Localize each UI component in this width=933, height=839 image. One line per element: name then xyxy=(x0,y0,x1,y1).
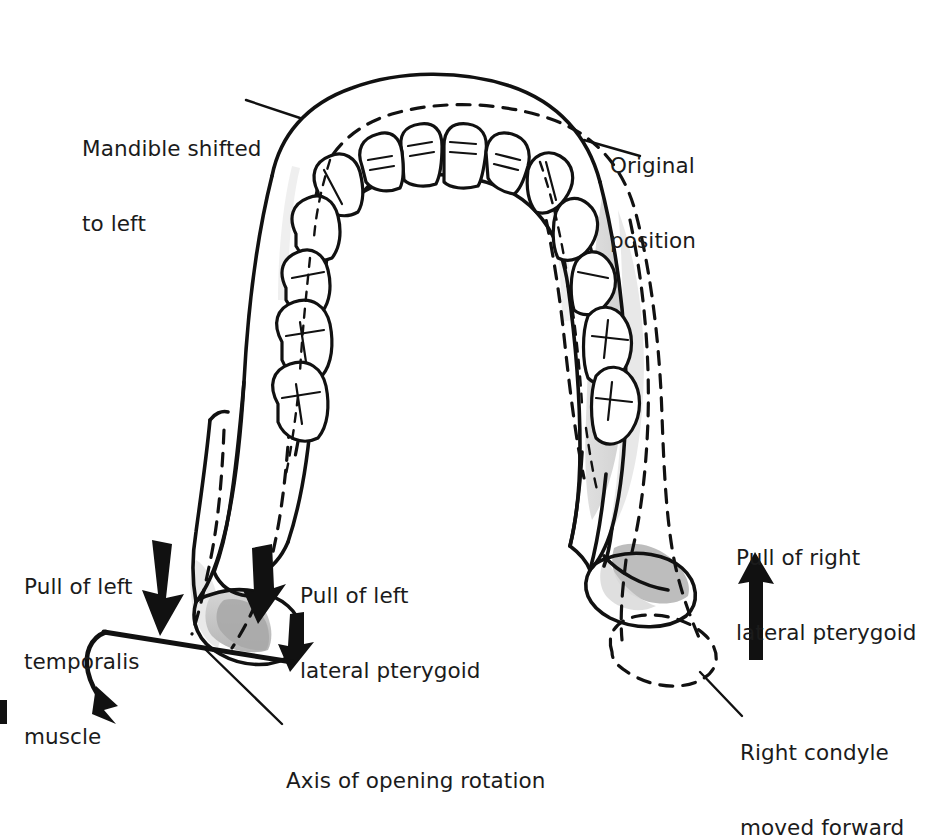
label-original-position-line1: Original xyxy=(610,153,696,178)
label-mandible-shifted-line1: Mandible shifted xyxy=(82,136,262,161)
label-pull-left-temporalis-line2: temporalis xyxy=(24,649,140,674)
right-coronoid-notch xyxy=(570,546,590,570)
label-axis-of-opening-rotation-line1: Axis of opening rotation xyxy=(286,768,545,793)
label-right-condyle-line2: moved forward xyxy=(740,815,904,839)
label-pull-right-lateral-pterygoid-line2: lateral pterygoid xyxy=(736,620,917,645)
label-axis-of-opening-rotation: Axis of opening rotation xyxy=(286,718,545,839)
label-pull-right-lateral-pterygoid: Pull of right lateral pterygoid xyxy=(736,495,917,695)
dental-arch xyxy=(273,124,640,444)
left-coronoid-step xyxy=(210,411,228,420)
label-pull-left-lateral-pterygoid-line2: lateral pterygoid xyxy=(300,658,481,683)
edge-registration-mark xyxy=(0,700,7,724)
label-pull-left-lateral-pterygoid-line1: Pull of left xyxy=(300,583,481,608)
label-original-position: Original position xyxy=(610,103,696,303)
label-right-condyle-moved-forward: Right condyle moved forward xyxy=(740,690,904,839)
left-ramus-anterior xyxy=(214,382,244,572)
label-pull-right-lateral-pterygoid-line1: Pull of right xyxy=(736,545,917,570)
label-original-position-line2: position xyxy=(610,228,696,253)
label-mandible-shifted-line2: to left xyxy=(82,211,262,236)
tooth-incisor-right-central xyxy=(444,124,486,188)
tooth-incisor-left-lateral xyxy=(360,133,404,191)
arrow-left-temporalis-down xyxy=(142,540,184,636)
label-pull-left-temporalis-line3: muscle xyxy=(24,724,140,749)
label-pull-left-temporalis: Pull of left temporalis muscle xyxy=(24,524,140,799)
label-right-condyle-line1: Right condyle xyxy=(740,740,904,765)
label-mandible-shifted: Mandible shifted to left xyxy=(82,86,262,286)
label-pull-left-lateral-pterygoid: Pull of left lateral pterygoid xyxy=(300,533,481,733)
tooth-incisor-right-lateral xyxy=(486,133,529,194)
tooth-molar2-left xyxy=(273,362,328,441)
label-pull-left-temporalis-line1: Pull of left xyxy=(24,574,140,599)
